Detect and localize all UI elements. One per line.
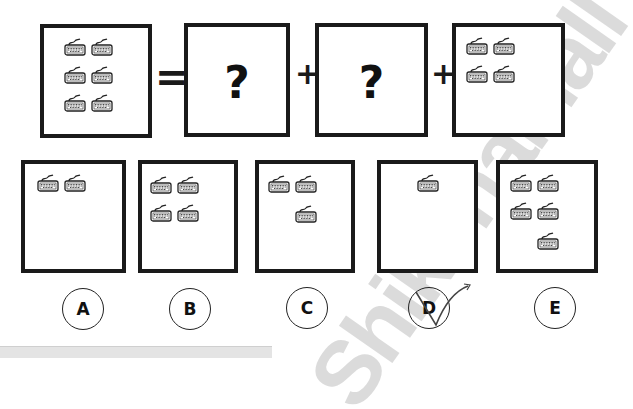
keyboard-icon bbox=[466, 65, 488, 83]
keyboard-icon bbox=[493, 37, 515, 55]
keyboard-icon bbox=[150, 204, 172, 222]
keyboard-icon bbox=[64, 38, 86, 56]
option-box-a[interactable] bbox=[21, 160, 126, 273]
option-box-c[interactable] bbox=[255, 160, 355, 273]
question-mark: ? bbox=[188, 57, 286, 108]
option-box-b[interactable] bbox=[138, 160, 238, 273]
keyboard-icon bbox=[295, 205, 317, 223]
checkmark-icon bbox=[410, 280, 475, 330]
option-box-e[interactable] bbox=[496, 160, 598, 273]
option-label-b[interactable]: B bbox=[169, 288, 211, 330]
keyboard-icon bbox=[64, 94, 86, 112]
keyboard-icon bbox=[37, 174, 59, 192]
keyboard-icon bbox=[510, 202, 532, 220]
unknown-box-2: ? bbox=[315, 23, 428, 137]
keyboard-icon bbox=[466, 37, 488, 55]
option-label-c[interactable]: C bbox=[286, 287, 328, 329]
unknown-box-1: ? bbox=[184, 23, 290, 137]
keyboard-icon bbox=[493, 65, 515, 83]
keyboard-icon bbox=[268, 175, 290, 193]
question-mark: ? bbox=[319, 57, 424, 108]
keyboard-icon bbox=[91, 66, 113, 84]
keyboard-icon bbox=[64, 174, 86, 192]
keyboard-icon bbox=[64, 66, 86, 84]
total-box bbox=[40, 24, 152, 138]
keyboard-icon bbox=[150, 176, 172, 194]
keyboard-icon bbox=[91, 94, 113, 112]
keyboard-icon bbox=[177, 204, 199, 222]
known-box bbox=[452, 23, 565, 137]
bottom-bar bbox=[0, 346, 272, 358]
keyboard-icon bbox=[537, 232, 559, 250]
option-label-a[interactable]: A bbox=[62, 288, 104, 330]
option-box-d[interactable] bbox=[377, 160, 478, 273]
keyboard-icon bbox=[177, 176, 199, 194]
keyboard-icon bbox=[537, 202, 559, 220]
keyboard-icon bbox=[91, 38, 113, 56]
keyboard-icon bbox=[417, 174, 439, 192]
keyboard-icon bbox=[537, 174, 559, 192]
option-label-e[interactable]: E bbox=[534, 287, 576, 329]
keyboard-icon bbox=[510, 174, 532, 192]
keyboard-icon bbox=[295, 175, 317, 193]
